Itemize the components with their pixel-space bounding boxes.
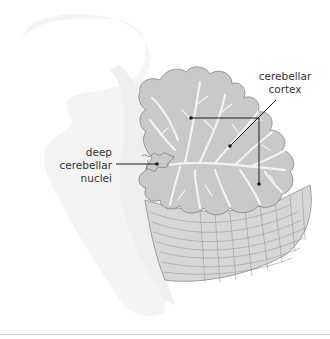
diagram: cerebellar cortex deep cerebellar nuclei <box>0 0 330 339</box>
label-cerebellar-cortex: cerebellar cortex <box>248 70 322 96</box>
label-cortex-line1: cerebellar <box>248 70 322 83</box>
bottom-divider <box>0 334 330 335</box>
cerebellum-illustration <box>0 0 330 339</box>
label-deep-cerebellar-nuclei: deep cerebellar nuclei <box>52 146 112 185</box>
label-nuclei-line2: cerebellar <box>52 159 112 172</box>
label-nuclei-line1: deep <box>52 146 112 159</box>
label-cortex-line2: cortex <box>248 83 322 96</box>
label-nuclei-line3: nuclei <box>52 172 112 185</box>
